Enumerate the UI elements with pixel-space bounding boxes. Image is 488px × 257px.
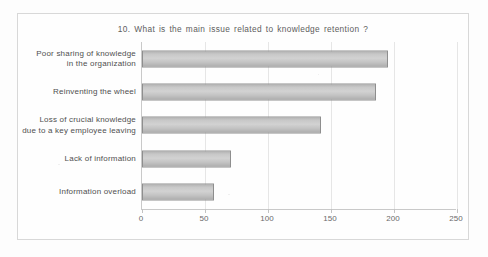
x-axis-tick <box>268 209 269 213</box>
bar[interactable] <box>142 84 376 101</box>
x-axis-tick <box>142 209 143 213</box>
category-label: Poor sharing of knowledgein the organiza… <box>14 48 136 69</box>
x-tick-label: 250 <box>449 214 462 223</box>
x-tick-label: 50 <box>200 214 209 223</box>
chart-frame: 10. What is the main issue related to kn… <box>17 13 469 240</box>
x-tick-label: 100 <box>260 214 273 223</box>
x-axis-line <box>141 209 456 210</box>
scanned-page-background: 10. What is the main issue related to kn… <box>0 0 488 257</box>
scan-speck <box>58 164 60 165</box>
category-label: Loss of crucial knowledgedue to a key em… <box>14 115 136 136</box>
bar-row: Lack of information <box>142 142 456 175</box>
bar-row: Poor sharing of knowledgein the organiza… <box>142 42 456 75</box>
bar-row: Loss of crucial knowledgedue to a key em… <box>142 109 456 142</box>
bar-row: Reinventing the wheel <box>142 75 456 108</box>
x-tick-label: 200 <box>386 214 399 223</box>
bar[interactable] <box>142 117 321 134</box>
bar[interactable] <box>142 184 214 201</box>
x-axis-tick <box>331 209 332 213</box>
bar[interactable] <box>142 150 231 167</box>
category-label: Reinventing the wheel <box>14 87 136 98</box>
bar-row: Information overload <box>142 176 456 209</box>
category-label: Lack of information <box>14 154 136 165</box>
x-axis-tick <box>394 209 395 213</box>
bar[interactable] <box>142 50 388 67</box>
gridline <box>457 42 458 209</box>
category-label: Information overload <box>14 187 136 198</box>
scan-speck <box>228 194 230 195</box>
x-axis-tick <box>205 209 206 213</box>
x-tick-label: 0 <box>139 214 143 223</box>
x-tick-label: 150 <box>323 214 336 223</box>
plot-area: Poor sharing of knowledgein the organiza… <box>141 42 456 209</box>
scan-speck <box>318 74 319 75</box>
x-axis-tick <box>457 209 458 213</box>
chart-title: 10. What is the main issue related to kn… <box>18 24 468 34</box>
